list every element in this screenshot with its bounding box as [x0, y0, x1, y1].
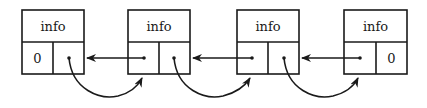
node-2-info: info [146, 19, 171, 34]
node-1-null-left: 0 [33, 51, 41, 66]
node-4-info: info [363, 19, 388, 34]
linked-list-diagram: info 0 info info info 0 [0, 0, 427, 108]
node-3: info [237, 10, 299, 74]
node-4-null-right: 0 [387, 51, 395, 66]
node-3-info: info [255, 19, 280, 34]
node-1-info: info [40, 19, 65, 34]
node-4: info 0 [344, 10, 407, 74]
node-2: info [128, 10, 190, 74]
node-1: info 0 [22, 10, 84, 74]
